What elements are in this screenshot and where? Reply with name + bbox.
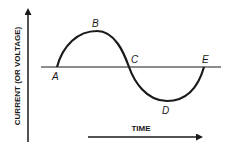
point-label-b: B [92,18,99,29]
sine-curve [57,31,204,101]
sine-wave-diagram: CURRENT (OR VOLTAGE) A B C D E TIME [0,0,232,152]
y-axis-label: CURRENT (OR VOLTAGE) [13,26,22,125]
point-label-d: D [162,105,169,116]
point-label-a: A [51,71,59,82]
point-label-e: E [202,54,209,65]
x-axis-label: TIME [131,124,151,133]
point-label-c: C [131,54,139,65]
